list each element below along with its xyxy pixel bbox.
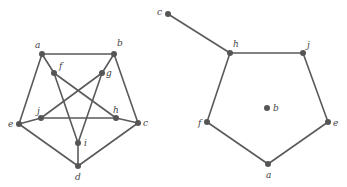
vertex-label-right-c: c <box>157 7 162 17</box>
vertex-label-right-b: b <box>273 103 279 113</box>
vertex-left-a <box>39 51 45 57</box>
vertex-left-b <box>111 51 117 57</box>
edge-right-a-f <box>207 122 268 164</box>
vertex-label-left-f: f <box>58 61 64 71</box>
vertex-right-a <box>265 161 271 167</box>
vertex-left-d <box>75 163 81 169</box>
vertex-label-right-e: e <box>333 118 338 128</box>
edge-left-e-j <box>19 118 41 124</box>
vertex-label-right-h: h <box>233 39 239 49</box>
vertex-right-f <box>204 119 210 125</box>
graph-nodes <box>16 11 331 169</box>
vertex-label-left-g: g <box>106 68 112 78</box>
edge-left-f-h <box>54 73 116 118</box>
vertex-label-right-j: j <box>305 40 310 50</box>
vertex-label-left-a: a <box>35 40 40 50</box>
vertex-right-j <box>300 50 306 56</box>
vertex-left-h <box>113 115 119 121</box>
vertex-left-i <box>75 140 81 146</box>
vertex-left-e <box>16 121 22 127</box>
edge-right-e-a <box>268 122 328 164</box>
vertex-right-e <box>325 119 331 125</box>
vertex-right-h <box>227 50 233 56</box>
vertex-right-b <box>264 105 270 111</box>
vertex-left-g <box>99 70 105 76</box>
edge-left-f-i <box>54 73 78 143</box>
vertex-label-left-e: e <box>8 119 13 129</box>
edge-left-a-f <box>42 54 54 73</box>
vertex-left-c <box>135 120 141 126</box>
graph-labels: abfgjhecidchjbfea <box>8 7 338 182</box>
vertex-label-left-d: d <box>75 172 81 182</box>
edge-right-j-e <box>303 53 328 122</box>
edge-left-g-j <box>41 73 102 118</box>
vertex-label-right-a: a <box>266 170 271 180</box>
vertex-label-left-i: i <box>84 138 87 148</box>
vertex-left-f <box>51 70 57 76</box>
vertex-label-left-b: b <box>117 38 123 48</box>
vertex-label-right-f: f <box>197 118 203 128</box>
graph-diagram: abfgjhecidchjbfea <box>0 0 347 187</box>
edge-right-f-h <box>207 53 230 122</box>
vertex-label-left-j: j <box>35 106 40 116</box>
edge-right-c-h <box>168 14 230 53</box>
vertex-label-left-c: c <box>143 118 148 128</box>
vertex-right-c <box>165 11 171 17</box>
vertex-label-left-h: h <box>113 105 119 115</box>
edge-left-h-c <box>116 118 138 123</box>
graph-edges <box>19 14 328 166</box>
edge-left-c-d <box>78 123 138 166</box>
edge-left-e-d <box>19 124 78 166</box>
edge-left-g-i <box>78 73 102 143</box>
